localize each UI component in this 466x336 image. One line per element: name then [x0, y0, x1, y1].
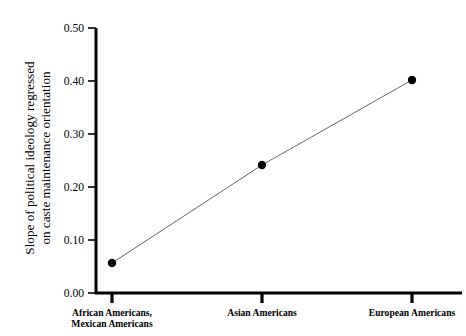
- x-tick-label-1-line-2: Mexican Americans: [37, 318, 187, 329]
- chart-figure: Slope of political ideology regressed on…: [0, 0, 466, 336]
- x-tick-label-1: African Americans, Mexican Americans: [37, 307, 187, 330]
- chart-plot-area: [0, 0, 466, 336]
- x-tick-label-3: European Americans: [337, 307, 466, 318]
- x-tick-label-2: Asian Americans: [187, 307, 337, 318]
- data-line-slope: [112, 80, 412, 263]
- x-tick-label-3-line-1: European Americans: [337, 307, 466, 318]
- data-point-african-mexican-americans: [108, 259, 116, 267]
- x-tick-label-1-line-1: African Americans,: [37, 307, 187, 318]
- x-tick-label-2-line-1: Asian Americans: [187, 307, 337, 318]
- data-point-european-americans: [408, 76, 416, 84]
- data-point-asian-americans: [258, 161, 266, 169]
